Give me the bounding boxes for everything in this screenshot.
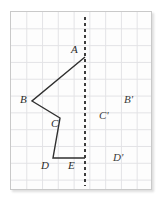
vertex-label-B: B bbox=[20, 94, 27, 105]
vertex-label-Cp: C' bbox=[99, 110, 109, 121]
polyline-shape-abcde bbox=[32, 57, 85, 158]
vertex-label-E: E bbox=[68, 160, 75, 171]
vertex-label-Dp: D' bbox=[113, 152, 123, 163]
vertex-label-D: D bbox=[41, 160, 49, 171]
vertex-label-C: C bbox=[51, 118, 58, 129]
figure-root: ABCDEB'C'D' bbox=[0, 0, 162, 206]
vertex-label-Bp: B' bbox=[124, 94, 133, 105]
vertex-label-A: A bbox=[71, 44, 78, 55]
